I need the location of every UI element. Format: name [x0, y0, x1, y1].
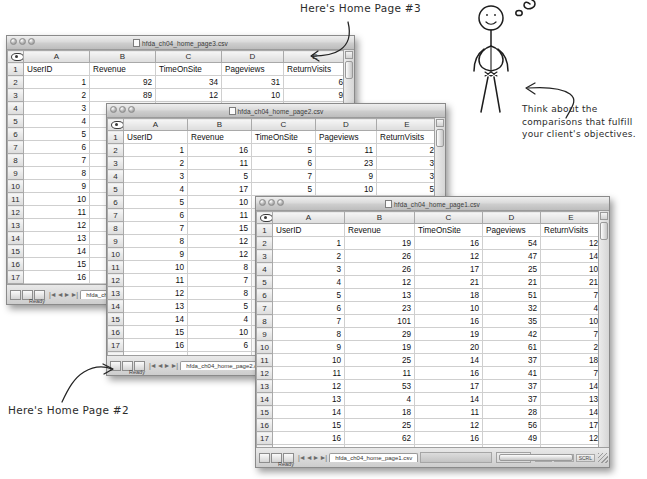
- table-cell[interactable]: 37: [483, 393, 541, 406]
- table-cell[interactable]: 14: [415, 354, 483, 367]
- sheet-tab[interactable]: hfda_ch04_home_page1.csv: [329, 453, 418, 462]
- table-row[interactable]: 4326172510: [257, 263, 602, 276]
- table-cell[interactable]: 8: [24, 167, 90, 180]
- cell-header-returnvisits[interactable]: ReturnVisits: [541, 224, 602, 237]
- table-cell[interactable]: 32: [483, 302, 541, 315]
- table-cell[interactable]: 1: [124, 144, 188, 157]
- table-cell[interactable]: 31: [222, 76, 284, 89]
- scroll-up-arrow[interactable]: [600, 212, 608, 220]
- table-cell[interactable]: 1: [273, 237, 345, 250]
- scrollbar-thumb[interactable]: [436, 129, 444, 147]
- cell-header-timeonsite[interactable]: TimeOnSite: [415, 224, 483, 237]
- table-cell[interactable]: 2: [124, 157, 188, 170]
- table-cell[interactable]: 5: [252, 144, 316, 157]
- table-cell[interactable]: 41: [483, 367, 541, 380]
- table-cell[interactable]: 13: [273, 393, 345, 406]
- row-number[interactable]: 3: [108, 157, 124, 170]
- row-number[interactable]: 10: [257, 341, 273, 354]
- scroll-up-arrow[interactable]: [345, 51, 353, 59]
- column-header-c[interactable]: C: [415, 212, 483, 224]
- table-cell[interactable]: 101: [345, 315, 415, 328]
- table-cell[interactable]: 19: [345, 341, 415, 354]
- select-all-corner[interactable]: [108, 119, 124, 131]
- table-cell[interactable]: 34: [156, 76, 222, 89]
- table-cell[interactable]: 14: [24, 245, 90, 258]
- row-number[interactable]: 4: [257, 263, 273, 276]
- table-cell[interactable]: 21: [541, 276, 602, 289]
- table-row[interactable]: 219234316: [8, 76, 347, 89]
- table-cell[interactable]: 53: [345, 380, 415, 393]
- table-cell[interactable]: 13: [124, 300, 188, 313]
- column-header-e[interactable]: E: [284, 51, 347, 63]
- table-cell[interactable]: 12: [345, 276, 415, 289]
- table-cell[interactable]: 51: [483, 289, 541, 302]
- scroll-up-arrow[interactable]: [436, 119, 444, 127]
- table-cell[interactable]: 25: [345, 419, 415, 432]
- row-number[interactable]: 16: [257, 419, 273, 432]
- table-cell[interactable]: 17: [415, 263, 483, 276]
- table-cell[interactable]: 8: [273, 328, 345, 341]
- column-header-d[interactable]: D: [483, 212, 541, 224]
- column-header-d[interactable]: D: [316, 119, 377, 131]
- column-header-e[interactable]: E: [541, 212, 602, 224]
- row-number[interactable]: 6: [257, 289, 273, 302]
- table-cell[interactable]: 8: [188, 261, 252, 274]
- table-row[interactable]: 87101163510: [257, 315, 602, 328]
- table-row[interactable]: 5412212121: [257, 276, 602, 289]
- table-cell[interactable]: 12: [415, 250, 483, 263]
- table-cell[interactable]: 6: [273, 302, 345, 315]
- table-cell[interactable]: 47: [483, 250, 541, 263]
- scrollbar-thumb[interactable]: [600, 222, 608, 240]
- table-cell[interactable]: 17: [541, 419, 602, 432]
- table-cell[interactable]: 15: [124, 326, 188, 339]
- table-cell[interactable]: 16: [415, 315, 483, 328]
- row-number[interactable]: 4: [8, 102, 24, 115]
- table-row[interactable]: 32116233: [108, 157, 438, 170]
- column-header-a[interactable]: A: [273, 212, 345, 224]
- row-number[interactable]: 16: [108, 326, 124, 339]
- table-cell[interactable]: 16: [188, 144, 252, 157]
- row-number[interactable]: 8: [108, 222, 124, 235]
- sheet-nav-arrows[interactable]: |◄ ◄ ► ►|: [49, 291, 77, 298]
- table-cell[interactable]: 2: [273, 250, 345, 263]
- table-cell[interactable]: 14: [124, 313, 188, 326]
- table-row[interactable]: 3226124714: [257, 250, 602, 263]
- table-cell[interactable]: 11: [316, 144, 377, 157]
- table-cell[interactable]: 11: [415, 406, 483, 419]
- row-number[interactable]: 2: [257, 237, 273, 250]
- row-number[interactable]: 17: [8, 271, 24, 284]
- table-cell[interactable]: 16: [273, 432, 345, 445]
- scrollbar-thumb[interactable]: [345, 61, 353, 79]
- table-cell[interactable]: 14: [541, 406, 602, 419]
- table-cell[interactable]: 14: [415, 393, 483, 406]
- table-cell[interactable]: 5: [24, 128, 90, 141]
- table-cell[interactable]: 7: [541, 328, 602, 341]
- sheet-area[interactable]: ABCDE1UserIDRevenueTimeOnSitePageviewsRe…: [256, 211, 609, 468]
- row-number[interactable]: 8: [8, 154, 24, 167]
- row-number[interactable]: 17: [257, 432, 273, 445]
- table-row[interactable]: 111025143718: [257, 354, 602, 367]
- cell-header-timeonsite[interactable]: TimeOnSite: [252, 131, 316, 144]
- row-number[interactable]: 7: [108, 209, 124, 222]
- table-cell[interactable]: 7: [541, 367, 602, 380]
- table-cell[interactable]: 5: [124, 196, 188, 209]
- table-cell[interactable]: 13: [345, 289, 415, 302]
- table-cell[interactable]: 4: [345, 393, 415, 406]
- row-number[interactable]: 9: [257, 328, 273, 341]
- table-cell[interactable]: 11: [345, 367, 415, 380]
- table-cell[interactable]: 6: [252, 157, 316, 170]
- table-row[interactable]: 1UserIDRevenueTimeOnSitePageviewsReturnV…: [108, 131, 438, 144]
- cell-header-returnvisits[interactable]: ReturnVisits: [284, 63, 347, 76]
- table-cell[interactable]: 5: [377, 183, 438, 196]
- row-number[interactable]: 12: [257, 367, 273, 380]
- table-cell[interactable]: 10: [124, 261, 188, 274]
- table-cell[interactable]: 9: [124, 248, 188, 261]
- table-row[interactable]: 161525125617: [257, 419, 602, 432]
- row-number[interactable]: 2: [8, 76, 24, 89]
- cell-header-revenue[interactable]: Revenue: [345, 224, 415, 237]
- row-number[interactable]: 12: [8, 206, 24, 219]
- table-row[interactable]: 14134143713: [257, 393, 602, 406]
- table-cell[interactable]: 11: [188, 209, 252, 222]
- table-cell[interactable]: 28: [483, 406, 541, 419]
- column-header-e[interactable]: E: [377, 119, 438, 131]
